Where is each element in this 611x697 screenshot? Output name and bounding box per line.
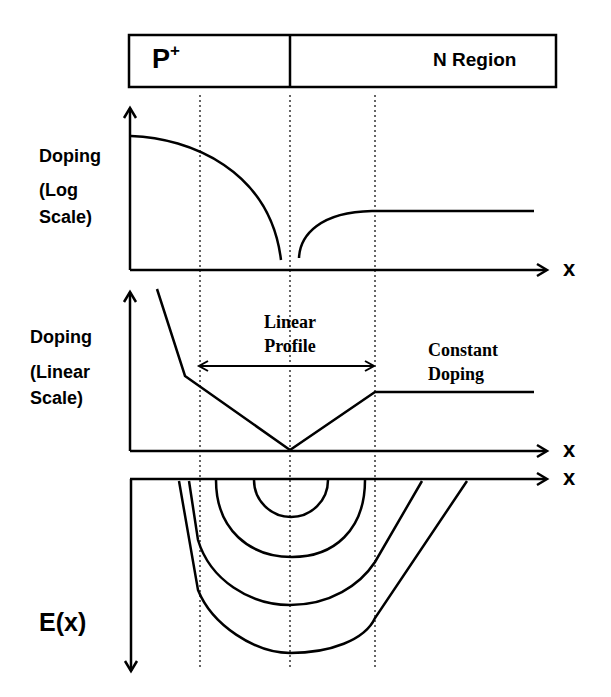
electric-field-ylabel: E(x) — [39, 608, 86, 637]
n-region-label: N Region — [433, 49, 516, 71]
linear-profile-annotation-line2: Profile — [250, 336, 330, 357]
linear-profile-annotation-line1: Linear — [250, 312, 330, 333]
panel-doping-log — [124, 108, 547, 276]
field-curve-1 — [254, 480, 328, 517]
p-region-superscript: + — [170, 41, 180, 60]
log-doping-ylabel-line3: Scale) — [39, 207, 92, 228]
log-doping-ylabel-line1: Doping — [39, 146, 101, 167]
constant-doping-annotation-line1: Constant — [428, 340, 498, 361]
panel-electric-field — [125, 473, 547, 671]
log-doping-xlabel: x — [563, 256, 575, 282]
linear-doping-ylabel-line2: (Linear — [30, 362, 90, 383]
constant-doping-annotation-line2: Doping — [428, 364, 484, 385]
p-region-letter: P — [152, 44, 170, 74]
linear-doping-ylabel-line3: Scale) — [30, 388, 83, 409]
electric-field-xlabel: x — [563, 465, 575, 491]
log-doping-ylabel-line2: (Log — [39, 180, 78, 201]
field-curve-3 — [189, 481, 422, 605]
p-side-doping-curve — [131, 136, 281, 260]
p-plus-region-label: P+ — [152, 43, 180, 75]
field-curve-4 — [179, 481, 467, 653]
linear-doping-xlabel: x — [563, 437, 575, 463]
linear-doping-ylabel-line1: Doping — [30, 327, 92, 348]
n-side-doping-curve — [299, 211, 534, 258]
